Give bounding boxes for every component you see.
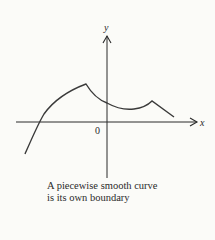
figure-caption: A piecewise smooth curve is its own boun…	[47, 180, 158, 204]
x-axis-label: x	[199, 117, 205, 128]
caption-line-2: is its own boundary	[47, 192, 158, 204]
origin-label: 0	[95, 125, 100, 136]
y-axis-label: y	[103, 22, 109, 33]
caption-line-1: A piecewise smooth curve	[47, 180, 158, 192]
piecewise-curve	[25, 84, 174, 154]
